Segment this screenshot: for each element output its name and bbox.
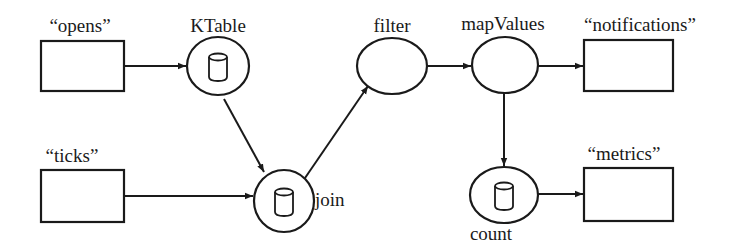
topic-box: [41, 170, 124, 222]
node-join[interactable]: join: [254, 170, 345, 232]
node-ticks[interactable]: “ticks”: [41, 145, 124, 222]
processor-ellipse: [472, 37, 538, 93]
node-count[interactable]: count: [470, 167, 538, 244]
node-label: “ticks”: [46, 145, 99, 166]
node-mapvalues[interactable]: mapValues: [461, 13, 544, 93]
node-notifications[interactable]: “notifications”: [584, 14, 696, 91]
node-ktable[interactable]: KTable: [187, 15, 249, 95]
node-label: KTable: [190, 15, 246, 36]
processor-ellipse: [254, 170, 314, 232]
node-label: filter: [374, 15, 412, 36]
processor-ellipse: [187, 37, 249, 95]
node-label: count: [470, 223, 513, 244]
topology-diagram: “opens” “ticks” KTable join filter mapVa…: [0, 0, 738, 246]
node-metrics[interactable]: “metrics”: [584, 143, 673, 221]
topic-box: [584, 40, 673, 91]
node-label: mapValues: [461, 13, 544, 34]
node-filter[interactable]: filter: [357, 15, 427, 94]
topic-box: [584, 168, 673, 221]
node-label: “opens”: [49, 15, 110, 36]
node-label: “metrics”: [588, 143, 661, 164]
processor-ellipse: [470, 167, 538, 223]
topic-box: [41, 41, 124, 91]
node-opens[interactable]: “opens”: [41, 15, 124, 91]
node-label: join: [314, 189, 345, 210]
edge-join-to-filter: [305, 86, 368, 178]
node-label: “notifications”: [584, 14, 696, 35]
edge-ktable-to-join: [224, 99, 264, 172]
processor-ellipse: [357, 38, 427, 94]
